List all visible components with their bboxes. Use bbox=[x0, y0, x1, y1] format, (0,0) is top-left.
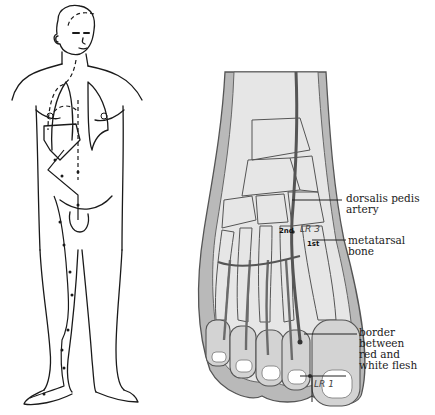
second-metatarsal-mark: 2nd bbox=[279, 227, 294, 235]
acupoint-lr3-label: LR 3 bbox=[300, 224, 320, 234]
metatarsal-bone-label: metatarsal bone bbox=[348, 235, 405, 257]
dorsalis-pedis-artery-label: dorsalis pedis artery bbox=[346, 193, 420, 215]
acupoint-lr1-label: LR 1 bbox=[314, 379, 334, 389]
first-metatarsal-mark: 1st bbox=[307, 240, 319, 248]
border-red-white-flesh-label: border between red and white flesh bbox=[359, 327, 435, 371]
liver-meridian-diagram: dorsalis pedis artery metatarsal bone bo… bbox=[0, 0, 435, 415]
